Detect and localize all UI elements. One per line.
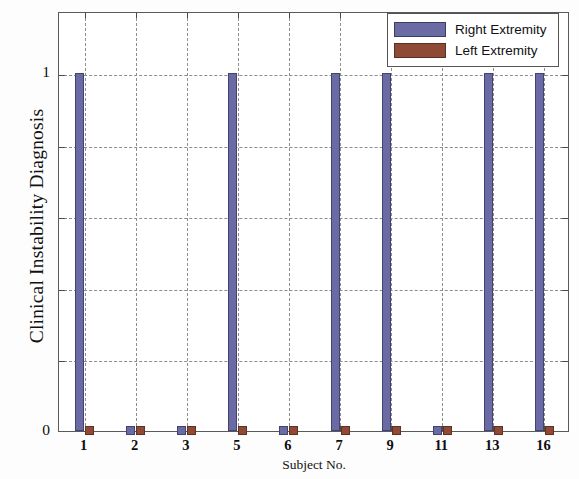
- bar-right-extremity: [228, 73, 237, 431]
- y-axis-tick: [59, 75, 65, 76]
- legend-swatch-right-extremity: [394, 22, 446, 37]
- y-axis-tick-right: [562, 218, 568, 219]
- x-axis-tick-top: [238, 13, 239, 18]
- y-axis-tick: [59, 147, 65, 148]
- bar-right-extremity: [75, 73, 84, 431]
- y-axis-tick: [59, 290, 65, 291]
- bar-right-extremity: [382, 73, 391, 431]
- bar-left-extremity: [289, 426, 298, 435]
- plot-area: [58, 12, 569, 432]
- legend-label-right-extremity: Right Extremity: [455, 22, 547, 37]
- x-tick-label: 6: [268, 437, 308, 454]
- y-axis-tick: [59, 361, 65, 362]
- bar-right-extremity: [535, 73, 544, 431]
- x-tick-label: 16: [523, 437, 563, 454]
- x-tick-label: 1: [64, 437, 104, 454]
- bar-right-extremity: [433, 426, 442, 435]
- x-axis-tick-top: [187, 13, 188, 18]
- y-axis-tick-right: [562, 75, 568, 76]
- y-axis-tick-right: [562, 147, 568, 148]
- legend-label-left-extremity: Left Extremity: [455, 43, 538, 58]
- bar-right-extremity: [279, 426, 288, 435]
- x-tick-label: 3: [166, 437, 206, 454]
- x-tick-label: 11: [421, 437, 461, 454]
- x-tick-label: 13: [472, 437, 512, 454]
- bar-left-extremity: [545, 426, 554, 435]
- x-axis-tick-top: [85, 13, 86, 18]
- bar-right-extremity: [484, 73, 493, 431]
- bar-left-extremity: [392, 426, 401, 435]
- chart-legend: Right Extremity Left Extremity: [387, 13, 559, 67]
- bar-right-extremity: [177, 426, 186, 435]
- x-axis-title: Subject No.: [58, 457, 570, 473]
- bar-right-extremity: [331, 73, 340, 431]
- bar-left-extremity: [85, 426, 94, 435]
- bar-left-extremity: [443, 426, 452, 435]
- bar-left-extremity: [187, 426, 196, 435]
- bar-left-extremity: [136, 426, 145, 435]
- x-tick-label: 5: [217, 437, 257, 454]
- legend-item-left-extremity: Left Extremity: [394, 40, 552, 61]
- y-axis-tick: [59, 218, 65, 219]
- x-axis-tick-top: [136, 13, 137, 18]
- y-tick-label: 1: [20, 63, 50, 81]
- bar-left-extremity: [238, 426, 247, 435]
- bar-right-extremity: [126, 426, 135, 435]
- y-axis-tick-right: [562, 290, 568, 291]
- x-axis-tick-top: [340, 13, 341, 18]
- bar-left-extremity: [494, 426, 503, 435]
- y-axis-title: Clinical Instability Diagnosis: [26, 36, 48, 416]
- y-tick-label: 0: [20, 421, 50, 439]
- legend-item-right-extremity: Right Extremity: [394, 19, 552, 40]
- legend-swatch-left-extremity: [394, 43, 446, 58]
- x-axis-tick-top: [289, 13, 290, 18]
- bar-left-extremity: [341, 426, 350, 435]
- x-tick-label: 7: [319, 437, 359, 454]
- x-tick-label: 9: [370, 437, 410, 454]
- x-tick-label: 2: [115, 437, 155, 454]
- y-axis-tick-right: [562, 361, 568, 362]
- chart-figure: Clinical Instability Diagnosis 123567911…: [0, 0, 579, 479]
